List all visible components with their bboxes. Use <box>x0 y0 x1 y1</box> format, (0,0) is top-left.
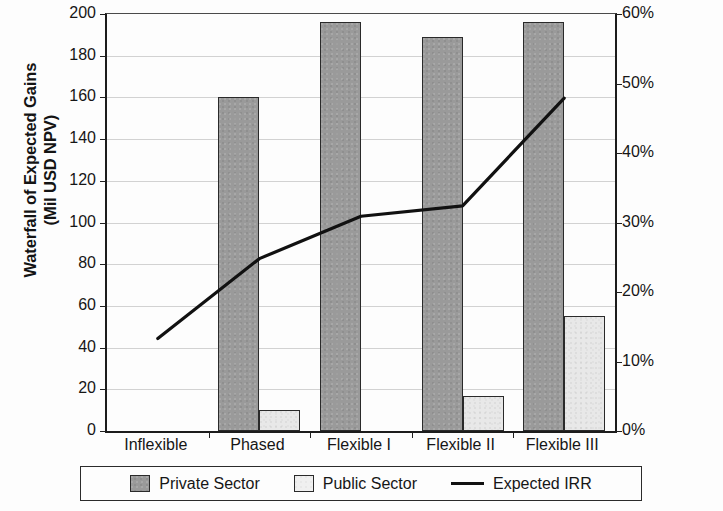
left-tick-mark <box>100 431 106 432</box>
left-tick-label: 80 <box>78 255 96 271</box>
legend-swatch-private-icon <box>130 475 150 492</box>
right-tick-label: 30% <box>622 214 654 230</box>
x-category-label-flexible-iii: Flexible III <box>526 436 599 454</box>
left-tick-mark <box>100 56 106 57</box>
legend-label-private-sector: Private Sector <box>159 475 259 493</box>
x-category-label-inflexible: Inflexible <box>124 436 187 454</box>
x-category-label-phased: Phased <box>230 436 284 454</box>
left-tick-mark <box>100 306 106 307</box>
right-tick-label: 10% <box>622 353 654 369</box>
right-tick-mark <box>616 84 622 85</box>
legend-swatch-public-icon <box>294 475 314 492</box>
left-tick-mark <box>100 181 106 182</box>
right-tick-label: 0% <box>622 422 645 438</box>
left-tick-label: 140 <box>69 130 96 146</box>
left-tick-label: 40 <box>78 339 96 355</box>
right-tick-mark <box>616 223 622 224</box>
legend-item-expected-irr: Expected IRR <box>451 475 592 493</box>
right-tick-mark <box>616 362 622 363</box>
right-tick-mark <box>616 153 622 154</box>
left-tick-mark <box>100 348 106 349</box>
right-tick-mark <box>616 431 622 432</box>
x-axis-category-labels: InflexiblePhasedFlexible IFlexible IIFle… <box>105 436 613 460</box>
chart-figure: Waterfall of Expected Gains (Mil USD NPV… <box>0 0 723 511</box>
left-tick-mark <box>100 264 106 265</box>
left-tick-label: 200 <box>69 5 96 21</box>
left-tick-mark <box>100 14 106 15</box>
left-tick-mark <box>100 223 106 224</box>
right-tick-label: 40% <box>622 144 654 160</box>
plot-area <box>105 13 617 433</box>
right-tick-label: 50% <box>622 75 654 91</box>
legend-item-private-sector: Private Sector <box>130 475 259 493</box>
left-tick-label: 160 <box>69 88 96 104</box>
left-tick-label: 60 <box>78 297 96 313</box>
left-tick-label: 180 <box>69 47 96 63</box>
left-tick-mark <box>100 389 106 390</box>
legend-label-public-sector: Public Sector <box>323 475 417 493</box>
left-tick-label: 0 <box>87 422 96 438</box>
chart-legend: Private Sector Public Sector Expected IR… <box>80 466 642 501</box>
left-tick-mark <box>100 139 106 140</box>
expected-irr-line <box>107 14 615 431</box>
legend-label-expected-irr: Expected IRR <box>493 475 592 493</box>
right-tick-label: 60% <box>622 5 654 21</box>
x-category-label-flexible-ii: Flexible II <box>426 436 494 454</box>
left-tick-mark <box>100 97 106 98</box>
right-axis-tick-labels: 0%10%20%30%40%50%60% <box>622 0 722 443</box>
x-category-label-flexible-i: Flexible I <box>327 436 391 454</box>
left-axis-tick-labels: 020406080100120140160180200 <box>0 0 96 443</box>
right-tick-mark <box>616 14 622 15</box>
right-tick-label: 20% <box>622 283 654 299</box>
left-tick-label: 100 <box>69 214 96 230</box>
legend-item-public-sector: Public Sector <box>294 475 417 493</box>
right-tick-mark <box>616 292 622 293</box>
left-tick-label: 120 <box>69 172 96 188</box>
legend-line-icon <box>451 482 484 485</box>
left-tick-label: 20 <box>78 380 96 396</box>
